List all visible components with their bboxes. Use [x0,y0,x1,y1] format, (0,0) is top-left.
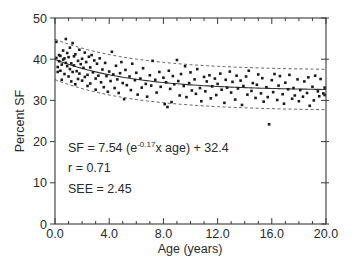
data-point [299,89,302,92]
data-point [271,79,274,82]
data-point [241,104,244,107]
data-point [149,74,152,77]
scatter-chart: 0.04.08.012.016.020.001020304050 Age (ye… [0,0,355,269]
data-point [239,79,242,82]
data-point [56,71,59,74]
data-point [109,80,112,83]
data-point [62,49,65,52]
data-point [205,80,208,83]
data-point [254,97,257,100]
data-point [59,69,62,72]
data-point [247,69,250,72]
data-point [185,96,188,99]
data-point [151,60,154,63]
data-point [96,62,99,65]
data-point [93,59,96,62]
data-point [158,71,161,74]
data-point [69,68,72,71]
data-point [86,85,89,88]
data-point [288,74,291,77]
data-point [140,86,143,89]
data-point [74,83,77,86]
data-point [66,65,69,68]
data-point [302,95,305,98]
data-point [204,90,207,93]
data-point [242,85,245,88]
data-point [298,100,301,103]
data-point [237,87,240,90]
data-point [155,91,158,94]
data-point [223,102,226,105]
y-tick-label: 0 [40,218,47,232]
data-point [130,89,133,92]
data-point [224,79,227,82]
data-point [210,97,213,100]
data-point [250,90,253,93]
data-point [84,76,87,79]
data-point [108,70,111,73]
data-point [92,71,95,74]
data-point [112,73,115,76]
upper-band [55,39,326,69]
data-point [71,42,74,45]
data-point [291,97,294,100]
data-point [292,87,295,90]
data-point [252,82,255,85]
data-point [165,81,168,84]
data-point [215,94,218,97]
x-tick-label: 16.0 [260,227,284,241]
data-point [276,99,279,102]
y-tick-label: 30 [33,94,47,108]
data-point [184,65,187,68]
data-point [214,77,217,80]
confidence-band [55,39,326,109]
data-point [60,79,63,82]
fit-equation: SF = 7.54 (e-0.17x age) + 32.4 [68,140,229,155]
data-point [60,63,63,66]
data-point [283,102,286,105]
data-point [77,60,80,63]
data-point [313,99,316,102]
data-point [195,93,198,96]
data-point [308,104,311,107]
equation-prefix: SF = 7.54 (e [68,141,137,155]
data-point [102,86,105,89]
regression-curve [55,59,326,89]
x-tick-label: 20.0 [314,227,338,241]
data-point [70,80,73,83]
equation-exponent: -0.17 [137,140,155,149]
data-point [169,88,172,91]
data-point [73,64,76,67]
data-point [159,86,162,89]
data-point [307,76,310,79]
data-point [115,64,118,67]
data-point [100,81,103,84]
data-point [231,81,234,84]
data-point [318,95,321,98]
equation-suffix: x age) + 32.4 [155,141,228,155]
data-point [319,78,322,81]
data-point [166,106,169,109]
y-tick-label: 50 [33,12,47,26]
data-point [229,70,232,73]
data-point [191,89,194,92]
data-point [117,92,120,95]
data-point [105,75,108,78]
data-point [81,57,84,60]
data-point [182,85,185,88]
data-point [81,79,84,82]
data-point [287,88,290,91]
data-point [260,92,263,95]
data-point [139,77,142,80]
data-point [162,76,165,79]
x-tick-label: 12.0 [205,227,229,241]
data-points [55,38,326,126]
data-point [84,51,87,54]
data-point [77,78,80,81]
data-point [180,73,183,76]
data-point [277,84,280,87]
data-point [71,71,74,74]
data-point [75,70,78,73]
axis-ticks: 0.04.08.012.016.020.001020304050 [33,12,338,242]
data-point [176,59,179,62]
